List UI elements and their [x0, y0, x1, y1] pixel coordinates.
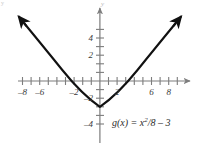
equation-lhs: g(x) =	[112, 117, 140, 128]
x-tick-label-neg8: –8	[18, 88, 27, 97]
y-tick-label-4: 4	[89, 34, 94, 43]
graph-figure: y y	[0, 0, 198, 147]
x-tick-label-neg2: –2	[70, 88, 79, 97]
curve-arrow-right	[173, 16, 181, 26]
y-tick-label-neg4: –4	[84, 120, 93, 129]
y-axis-group	[96, 8, 104, 143]
x-axis-group	[18, 77, 190, 85]
x-tick-label-neg6: –6	[35, 88, 44, 97]
x-tick-label-8: 8	[166, 88, 171, 97]
x-tick-label-2: 2	[115, 88, 120, 97]
equation-annotation: g(x) = x2/8 – 3	[112, 118, 171, 128]
x-tick-label-6: 6	[149, 88, 154, 97]
y-tick-label-2: 2	[89, 51, 94, 60]
curve-arrow-left	[19, 16, 27, 26]
equation-rhs: /8 – 3	[148, 117, 171, 128]
y-tick-label-neg2: –2	[84, 94, 93, 103]
